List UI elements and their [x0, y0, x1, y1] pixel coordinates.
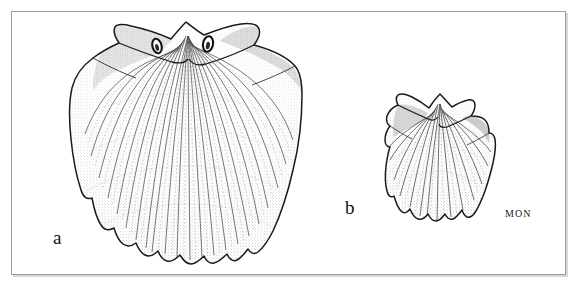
- specimen-label-a: a: [53, 228, 62, 247]
- figure-plate: a b MON: [0, 0, 580, 286]
- specimen-label-b: b: [345, 198, 355, 217]
- credit-mark: MON: [505, 208, 532, 219]
- plate-frame: [11, 11, 566, 275]
